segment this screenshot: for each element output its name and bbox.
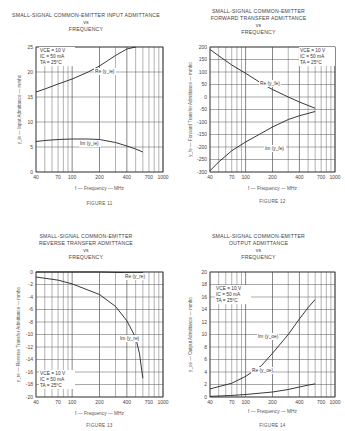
y-tick-label: 4: [204, 369, 207, 375]
plot-13: -20-18-16-14-12-10-8-6-4-204070100200400…: [26, 269, 169, 405]
x-tick-label: 700: [317, 174, 326, 180]
y-tick-label: -100: [197, 119, 207, 125]
condition-text: TA = 25°C: [40, 60, 62, 65]
y-tick-label: 200: [199, 44, 208, 50]
y-tick-label: -8: [29, 319, 34, 325]
y-tick-label: -12: [26, 344, 33, 350]
y-tick-label: 10: [201, 331, 207, 337]
y-tick-label: -18: [26, 381, 33, 387]
curve-label: Im (y_ie): [80, 141, 99, 146]
x-tick-label: 700: [145, 174, 154, 180]
y-tick-label: -250: [197, 156, 207, 162]
x-tick-label: 700: [145, 399, 154, 405]
condition-text: VCE = 10 V: [40, 48, 66, 53]
y-tick-label: 14: [201, 306, 207, 312]
condition-text: IC = 50 mA: [40, 54, 65, 59]
y-tick-label: 5: [30, 144, 33, 150]
x-tick-label: 1000: [329, 399, 340, 405]
curve-label: Im (y_fe): [265, 146, 284, 151]
y-tick-label: -300: [197, 169, 207, 175]
x-tick-label: 100: [241, 399, 250, 405]
y-tick-label: -10: [26, 331, 33, 337]
condition-text: VCE = 10 V: [40, 371, 66, 376]
x-tick-label: 200: [95, 399, 104, 405]
y-tick-label: 25: [27, 44, 33, 50]
x-tick-label: 40: [33, 399, 39, 405]
y-tick-label: 2: [204, 381, 207, 387]
x-tick-label: 200: [268, 399, 277, 405]
curve-label: Im (y_re): [120, 336, 140, 341]
y-tick-label: -20: [26, 394, 33, 400]
x-tick-label: 1000: [157, 399, 168, 405]
y-tick-label: 12: [201, 319, 207, 325]
condition-text: IC = 50 mA: [300, 54, 325, 59]
condition-text: IC = 50 mA: [216, 292, 241, 297]
y-tick-label: 16: [201, 294, 207, 300]
y-tick-label: -50: [200, 106, 207, 112]
x-tick-label: 70: [229, 399, 235, 405]
y-tick-label: 15: [27, 94, 33, 100]
plot-14: 0246810121416182040701002004007001000VCE…: [201, 269, 340, 405]
x-tick-label: 40: [33, 174, 39, 180]
y-tick-label: 50: [201, 81, 207, 87]
y-tick-label: 18: [201, 281, 207, 287]
x-tick-label: 200: [95, 174, 104, 180]
condition-text: TA = 25°C: [40, 383, 62, 388]
x-tick-label: 400: [123, 174, 132, 180]
y-tick-label: 8: [204, 344, 207, 350]
plot-12: -300-250-200-150-100-5005010015020040701…: [197, 44, 341, 180]
y-tick-label: 0: [204, 94, 207, 100]
curve-label: Im (y_oe): [258, 334, 279, 339]
y-tick-label: 0: [30, 269, 33, 275]
x-tick-label: 40: [207, 399, 213, 405]
y-tick-label: -6: [29, 306, 34, 312]
condition-text: IC = 50 mA: [40, 377, 65, 382]
x-tick-label: 400: [295, 174, 304, 180]
y-tick-label: 150: [199, 56, 208, 62]
plot-11: 051015202540701002004007001000VCE = 10 V…: [27, 44, 168, 180]
condition-text: VCE = 10 V: [216, 286, 242, 291]
x-tick-label: 100: [68, 399, 77, 405]
y-tick-label: 100: [199, 69, 208, 75]
y-tick-label: -150: [197, 131, 207, 137]
chart-canvas: 051015202540701002004007001000VCE = 10 V…: [0, 0, 345, 431]
x-tick-label: 400: [295, 399, 304, 405]
curve-label: Re (y_ie): [95, 69, 115, 74]
x-tick-label: 400: [123, 399, 132, 405]
x-tick-label: 40: [207, 174, 213, 180]
x-tick-label: 1000: [157, 174, 168, 180]
curve-label: Re (y_oe): [252, 368, 273, 373]
y-tick-label: -4: [29, 294, 34, 300]
condition-text: VCE = 10 V: [300, 48, 326, 53]
x-tick-label: 70: [55, 174, 61, 180]
y-tick-label: 6: [204, 356, 207, 362]
y-tick-label: -2: [29, 281, 34, 287]
y-tick-label: -14: [26, 356, 33, 362]
x-tick-label: 100: [68, 174, 77, 180]
condition-text: TA = 25°C: [300, 60, 322, 65]
x-tick-label: 70: [55, 399, 61, 405]
condition-text: TA = 25°C: [216, 298, 238, 303]
y-tick-label: -16: [26, 369, 33, 375]
x-tick-label: 700: [317, 399, 326, 405]
x-tick-label: 70: [229, 174, 235, 180]
y-tick-label: 20: [27, 69, 33, 75]
curve-label: Re (y_re): [125, 274, 145, 279]
curve-label: Re (y_fe): [260, 81, 280, 86]
x-tick-label: 1000: [329, 174, 340, 180]
y-tick-label: 20: [201, 269, 207, 275]
x-tick-label: 200: [268, 174, 277, 180]
y-tick-label: -200: [197, 144, 207, 150]
x-tick-label: 100: [241, 174, 250, 180]
y-tick-label: 10: [27, 119, 33, 125]
